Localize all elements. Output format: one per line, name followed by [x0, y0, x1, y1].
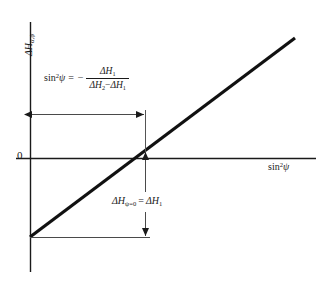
- x-axis-label: sin2ψ: [268, 162, 289, 172]
- fraction-numerator: ΔH1: [97, 66, 119, 78]
- y-axis-label-symbol: ΔH: [23, 43, 34, 56]
- x-axis-label-sin: sin: [268, 161, 280, 172]
- equation-minus: −: [77, 73, 85, 83]
- y-axis-label-subscript: α,ψ: [28, 34, 35, 43]
- intercept-rhs-subscript: 1: [159, 200, 162, 207]
- stress-plot-figure: ΔHα,ψ sin2ψ 0 sin2ψ = − ΔH1 ΔH2−ΔH1 ΔHψ=…: [0, 0, 330, 290]
- intercept-lhs-subscript: ψ=0: [125, 200, 136, 207]
- x-intercept-equation: sin2ψ = − ΔH1 ΔH2−ΔH1: [44, 66, 129, 91]
- intercept-equals: =: [136, 195, 146, 206]
- equation-lhs: sin2ψ: [44, 73, 65, 83]
- origin-label: 0: [17, 150, 23, 161]
- numerator-subscript: 1: [112, 70, 115, 77]
- denominator-right-subscript: 1: [123, 83, 126, 90]
- equation-sin: sin: [44, 72, 56, 83]
- y-axis-label: ΔHα,ψ: [24, 34, 35, 56]
- y-intercept-label: ΔHψ=0=ΔH1: [112, 196, 162, 207]
- denominator-left-symbol: ΔH: [89, 80, 101, 90]
- equation-psi: ψ: [59, 72, 65, 83]
- equation-fraction: ΔH1 ΔH2−ΔH1: [86, 66, 129, 91]
- plot-canvas: [0, 0, 330, 290]
- numerator-symbol: ΔH: [100, 66, 112, 76]
- x-axis-label-psi: ψ: [283, 161, 289, 172]
- intercept-lhs-symbol: ΔH: [112, 195, 125, 206]
- intercept-rhs-symbol: ΔH: [146, 195, 159, 206]
- denominator-right-symbol: ΔH: [110, 80, 122, 90]
- fraction-denominator: ΔH2−ΔH1: [86, 78, 129, 91]
- equation-equals: =: [67, 73, 75, 83]
